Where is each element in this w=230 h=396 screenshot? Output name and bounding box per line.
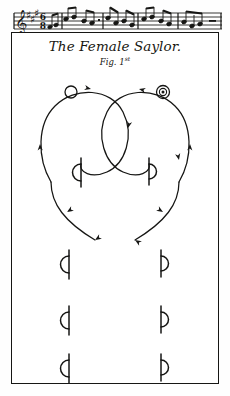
right-track-loop	[102, 92, 189, 182]
arrow-icon	[84, 85, 92, 92]
foot-left-r1	[73, 158, 81, 187]
arrow-icon	[187, 144, 192, 151]
foot-left-r4	[61, 354, 70, 383]
dance-notation-plate: 𝄞 ♯ ♯ ♯ 6 8	[0, 0, 230, 396]
arrow-icon	[66, 206, 74, 214]
foot-right-r3	[161, 306, 169, 333]
key-signature-sharps-icon: ♯ ♯ ♯	[26, 7, 39, 26]
foot-right-r1	[149, 158, 157, 185]
dance-track-diagram	[11, 32, 219, 384]
foot-left-r3	[61, 306, 70, 335]
right-track-arrows	[134, 86, 193, 245]
right-track-tail	[135, 182, 179, 240]
music-notes	[47, 7, 216, 29]
arrow-icon	[175, 153, 181, 160]
figure-frame: The Female Saylor. Fig. 1st	[11, 32, 219, 384]
foot-right-r2	[161, 250, 169, 277]
dancer-marker-man	[157, 86, 170, 99]
arrow-icon	[156, 206, 164, 214]
svg-text:♯: ♯	[34, 7, 39, 20]
left-track-loop	[41, 92, 128, 182]
left-track-tail	[51, 182, 95, 240]
svg-text:8: 8	[40, 21, 46, 31]
foot-right-r4	[161, 354, 169, 381]
arrow-icon	[94, 234, 102, 242]
time-signature: 6 8	[40, 12, 46, 31]
foot-left-r2	[61, 250, 70, 279]
arrow-icon	[37, 144, 42, 151]
right-dancer-track	[102, 92, 189, 240]
